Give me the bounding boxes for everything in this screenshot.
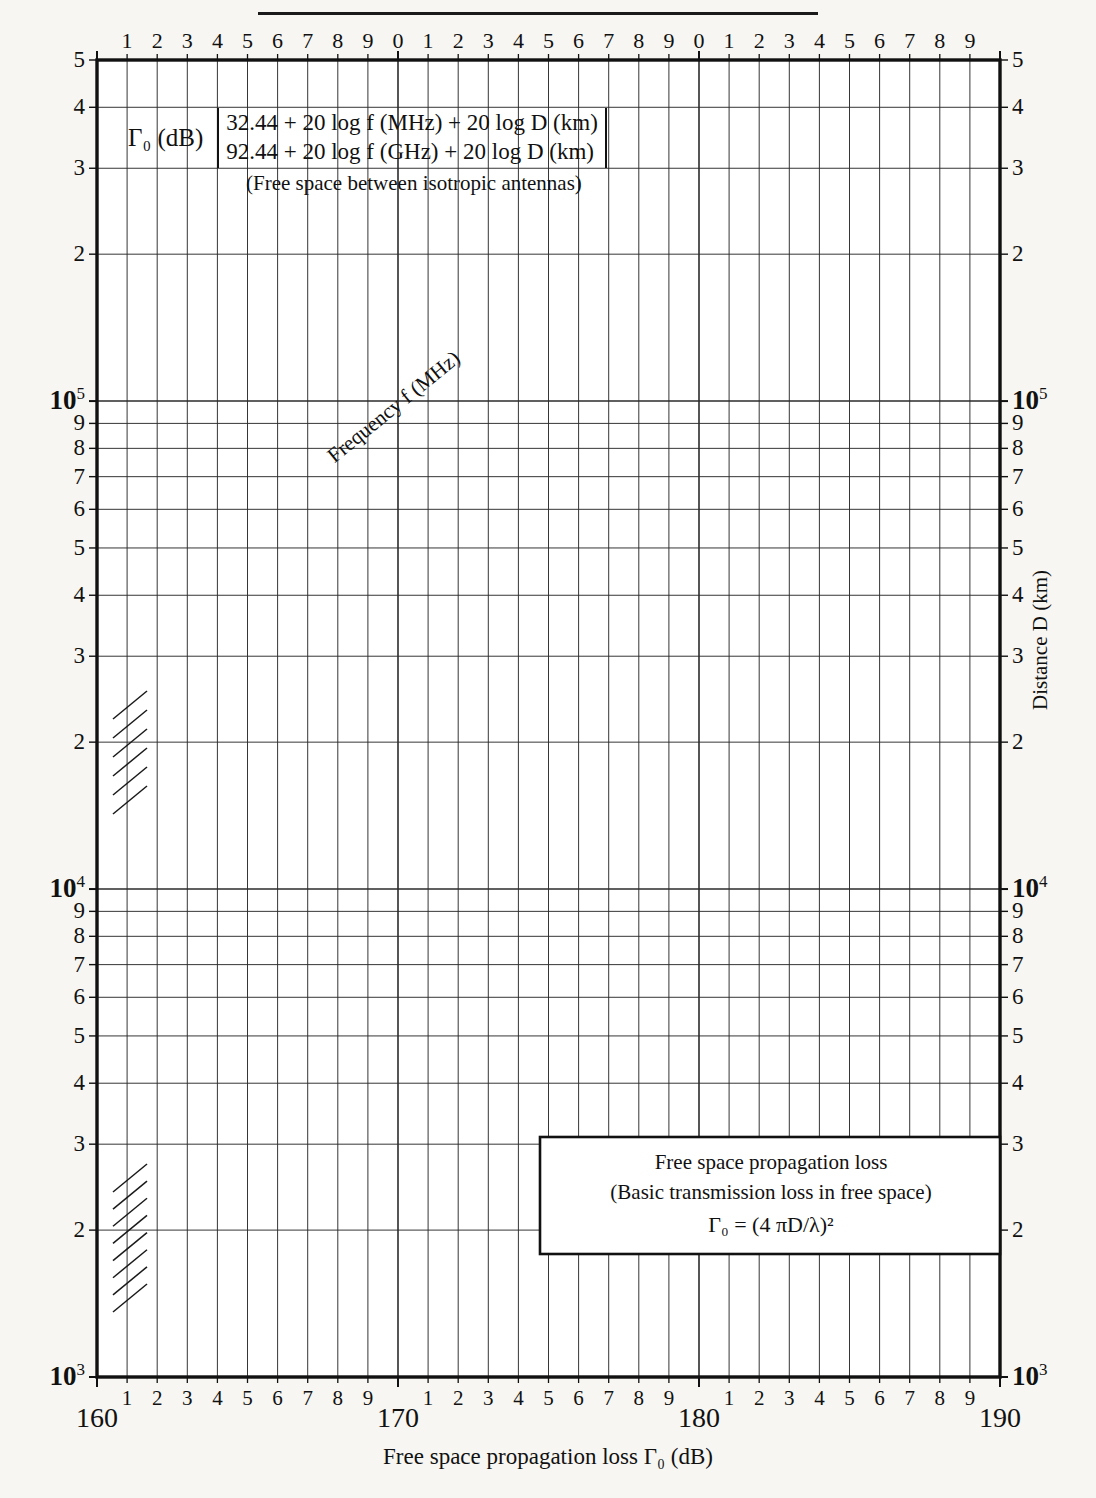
x-tick-top: 4 [814,28,825,53]
svg-text:4: 4 [74,1070,86,1095]
svg-text:4: 4 [74,582,86,607]
svg-text:5: 5 [1012,535,1024,560]
formula-note: (Free space between isotropic antennas) [246,171,728,197]
x-tick-top: 7 [603,28,614,53]
x-tick-top: 7 [302,28,313,53]
x-tick-top: 0 [694,28,705,53]
x-tick-top: 8 [332,28,343,53]
svg-text:2: 2 [74,729,86,754]
header-rule [258,12,818,15]
legend-line-3: Γ₀ = (4 πD/λ)² [545,1209,997,1240]
x-tick-major: 190 [979,1402,1021,1433]
svg-text:3: 3 [74,155,86,180]
y-tick-left: 7 [74,464,86,489]
svg-text:3: 3 [74,1131,86,1156]
y-tick-right: 2 [1012,729,1024,754]
svg-text:8: 8 [74,435,86,460]
x-tick-minor: 5 [844,1386,855,1410]
x-tick-minor: 7 [603,1386,614,1410]
y-tick-left: 9 [74,410,86,435]
svg-text:2: 2 [74,241,86,266]
svg-text:2: 2 [74,1217,86,1242]
formula-line-2: 92.44 + 20 log f (GHz) + 20 log D (km) [226,138,598,167]
y-tick-right: 7 [1012,952,1024,977]
x-tick-minor: 3 [784,1386,795,1410]
y-tick-left: 2 [74,1217,86,1242]
y-tick-right: 6 [1012,496,1024,521]
y-tick-right: 4 [1012,1070,1024,1095]
y-tick-left: 7 [74,952,86,977]
svg-text:8: 8 [1012,923,1024,948]
x-tick-minor: 4 [212,1386,223,1410]
svg-text:5: 5 [74,535,86,560]
x-tick-minor: 1 [724,1386,735,1410]
svg-text:3: 3 [1012,643,1024,668]
x-tick-minor: 9 [363,1386,374,1410]
nomogram-chart: Frequency f (MHz)12345678901234567890123… [0,0,1096,1498]
svg-text:9: 9 [74,898,86,923]
x-tick-minor: 6 [272,1386,283,1410]
x-tick-minor: 4 [814,1386,825,1410]
y-tick-right: 3 [1012,643,1024,668]
y-tick-left: 5 [74,47,86,72]
y-tick-right: 8 [1012,435,1024,460]
y-tick-right: 5 [1012,47,1024,72]
x-tick-top: 3 [182,28,193,53]
x-tick-top: 2 [754,28,765,53]
formula-gamma-label: Γ₀ (dB) [128,123,203,154]
svg-text:9: 9 [1012,410,1024,435]
formula-line-1: 32.44 + 20 log f (MHz) + 20 log D (km) [226,109,598,138]
svg-text:3: 3 [74,643,86,668]
y-tick-right: 3 [1012,155,1024,180]
y-tick-right: 8 [1012,923,1024,948]
x-tick-minor: 1 [423,1386,434,1410]
y-tick-right: 7 [1012,464,1024,489]
x-tick-minor: 2 [152,1386,163,1410]
svg-text:2: 2 [1012,241,1024,266]
svg-text:5: 5 [74,1023,86,1048]
y-tick-left: 2 [74,241,86,266]
svg-text:9: 9 [1012,898,1024,923]
svg-text:5: 5 [1012,47,1024,72]
x-tick-top: 7 [904,28,915,53]
svg-text:4: 4 [74,94,86,119]
x-tick-minor: 3 [483,1386,494,1410]
y-axis-title: Distance D (km) [1028,570,1053,710]
svg-text:4: 4 [1012,582,1024,607]
y-tick-left: 6 [74,984,86,1009]
legend-line-1: Free space propagation loss [545,1148,997,1178]
x-tick-minor: 3 [182,1386,193,1410]
y-tick-left: 2 [74,729,86,754]
svg-text:5: 5 [74,47,86,72]
y-tick-left: 3 [74,1131,86,1156]
y-tick-left: 4 [74,1070,86,1095]
y-tick-left: 9 [74,898,86,923]
y-tick-left: 8 [74,435,86,460]
x-tick-top: 4 [212,28,223,53]
x-tick-top: 5 [844,28,855,53]
y-tick-left: 103 [50,1360,86,1391]
x-tick-minor: 2 [453,1386,464,1410]
x-tick-top: 1 [122,28,133,53]
y-tick-left: 4 [74,582,86,607]
x-tick-top: 6 [573,28,584,53]
x-tick-top: 8 [934,28,945,53]
y-tick-right: 2 [1012,241,1024,266]
x-tick-top: 9 [362,28,373,53]
svg-text:3: 3 [1012,1131,1024,1156]
x-tick-top: 3 [784,28,795,53]
x-tick-major: 180 [678,1402,720,1433]
svg-text:5: 5 [1012,1023,1024,1048]
svg-text:7: 7 [74,464,86,489]
x-tick-minor: 7 [302,1386,313,1410]
x-tick-minor: 1 [122,1386,133,1410]
x-tick-minor: 6 [573,1386,584,1410]
x-tick-minor: 9 [664,1386,675,1410]
y-tick-left: 4 [74,94,86,119]
svg-text:3: 3 [1012,155,1024,180]
x-axis-title: Free space propagation loss Γ₀ (dB) [0,1444,1096,1470]
x-tick-top: 5 [543,28,554,53]
x-tick-top: 2 [453,28,464,53]
y-tick-left: 8 [74,923,86,948]
x-tick-top: 9 [964,28,975,53]
